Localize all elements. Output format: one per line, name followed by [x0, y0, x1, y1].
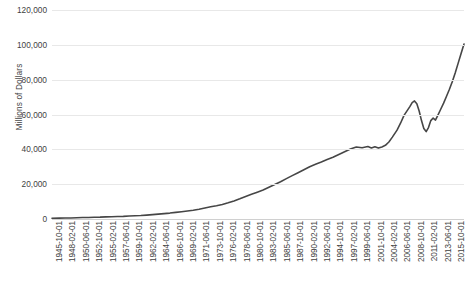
x-axis-tick-labels: 1945-10-011948-02-011950-06-011952-10-01… — [52, 221, 464, 283]
x-tick-label: 1969-02-01 — [189, 221, 198, 262]
x-tick-label: 2004-02-01 — [390, 221, 399, 262]
x-tick-label: 1976-02-01 — [229, 221, 238, 262]
x-tick-label: 1997-02-01 — [350, 221, 359, 262]
x-tick-label: 2011-02-01 — [430, 221, 439, 261]
x-tick-label: 1980-10-01 — [256, 221, 265, 262]
chart-container: Millions of Dollars 020,00040,00060,0008… — [0, 0, 468, 283]
gridline-0 — [52, 219, 464, 220]
x-tick-label: 1962-02-01 — [149, 221, 158, 262]
x-tick-label: 1994-10-01 — [336, 221, 345, 262]
x-tick-label: 1952-10-01 — [95, 221, 104, 262]
x-tick-label: 2006-06-01 — [403, 221, 412, 262]
x-tick-label: 1999-06-01 — [363, 221, 372, 262]
x-tick-label: 2013-06-01 — [444, 221, 453, 262]
x-tick-label: 1973-10-01 — [216, 221, 225, 262]
x-tick-label: 1964-06-01 — [162, 221, 171, 262]
y-tick-label: 120,000 — [17, 5, 47, 15]
x-tick-label: 2015-10-01 — [457, 221, 466, 262]
x-tick-label: 1966-10-01 — [176, 221, 185, 262]
y-tick-label: 20,000 — [22, 179, 47, 189]
x-tick-label: 1990-02-01 — [310, 221, 319, 262]
x-tick-label: 1971-06-01 — [202, 221, 211, 262]
x-tick-label: 1957-06-01 — [122, 221, 131, 262]
y-axis-tick-labels: 020,00040,00060,00080,000100,000120,000 — [0, 0, 52, 283]
x-tick-label: 1945-10-01 — [55, 221, 64, 262]
x-tick-label: 1987-10-01 — [296, 221, 305, 262]
x-tick-label: 1983-02-01 — [269, 221, 278, 262]
x-tick-label: 1948-02-01 — [68, 221, 77, 262]
x-tick-label: 1959-10-01 — [135, 221, 144, 262]
x-tick-label: 1955-02-01 — [109, 221, 118, 262]
x-tick-label: 2001-10-01 — [377, 221, 386, 262]
x-tick-label: 1978-06-01 — [243, 221, 252, 262]
y-tick-label: 80,000 — [22, 75, 47, 85]
gridline-120000 — [52, 10, 464, 11]
y-tick-label: 40,000 — [22, 144, 47, 154]
gridline-100000 — [52, 45, 464, 46]
gridline-80000 — [52, 80, 464, 81]
y-tick-label: 100,000 — [17, 40, 47, 50]
x-tick-label: 2008-10-01 — [417, 221, 426, 262]
gridline-60000 — [52, 115, 464, 116]
y-tick-label: 0 — [42, 214, 47, 224]
gridline-40000 — [52, 149, 464, 150]
y-tick-label: 60,000 — [22, 110, 47, 120]
x-tick-label: 1950-06-01 — [82, 221, 91, 262]
x-tick-label: 1985-06-01 — [283, 221, 292, 262]
gridline-20000 — [52, 184, 464, 185]
x-tick-label: 1992-06-01 — [323, 221, 332, 262]
plot-area — [52, 10, 464, 219]
